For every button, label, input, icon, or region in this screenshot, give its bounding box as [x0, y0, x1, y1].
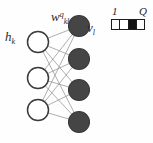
visible-node — [69, 80, 90, 101]
visible-node — [69, 112, 90, 133]
hidden-node — [28, 100, 49, 121]
discrete-level-legend: 1 Q — [111, 6, 147, 34]
hidden-node-layer — [28, 32, 49, 121]
legend-min-label: 1 — [112, 6, 118, 17]
visible-node — [69, 49, 90, 70]
visible-layer-label: vl — [87, 19, 95, 37]
network-diagram-figure: hk wqkl vl 1 Q — [0, 0, 153, 143]
legend-color-bar — [111, 19, 145, 30]
weight-label-subscript: kl — [64, 17, 69, 26]
legend-cell — [112, 20, 120, 29]
hidden-node — [28, 68, 49, 89]
legend-cell — [120, 20, 128, 29]
visible-layer-label-subscript: l — [93, 28, 95, 37]
legend-max-label: Q — [139, 6, 147, 17]
legend-cell — [129, 20, 137, 29]
weight-label-base: w — [51, 9, 60, 24]
hidden-node — [28, 32, 49, 53]
hidden-layer-label: hk — [5, 28, 15, 46]
legend-tick-labels: 1 Q — [111, 6, 147, 18]
weight-label: wqkl — [51, 8, 69, 26]
legend-cell — [137, 20, 144, 29]
hidden-layer-label-subscript: k — [12, 37, 15, 46]
